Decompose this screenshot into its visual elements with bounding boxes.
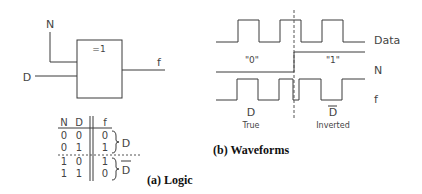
table-row: 1 0 1 (61, 156, 108, 167)
cell-d: 1 (76, 142, 82, 153)
cell-d: 0 (76, 156, 82, 167)
region-left-value: "0" (245, 55, 259, 65)
group-label-inverted: D (122, 164, 130, 177)
table-header-n: N (60, 117, 67, 128)
input-d-label: D (23, 71, 31, 84)
signal-label-f: f (374, 93, 379, 106)
region-right-value: "1" (326, 55, 340, 65)
caption-logic: (a) Logic (147, 173, 193, 187)
right-output-caption: Inverted (316, 121, 350, 130)
signal-label-data: Data (374, 34, 400, 47)
xor-diagram: =1 N D f N D f 0 0 0 0 1 1 1 0 (0, 0, 422, 194)
cell-n: 1 (61, 168, 67, 179)
input-n-label: N (46, 18, 54, 31)
brace-top (112, 131, 119, 153)
input-n-wire (50, 32, 77, 62)
table-row: 1 1 0 (61, 168, 108, 179)
gate-symbol: =1 (92, 44, 105, 54)
cell-f: 1 (102, 142, 108, 153)
cell-d: 0 (76, 130, 82, 141)
waveform-n: N "0" "1" (216, 52, 382, 77)
signal-label-n: N (374, 64, 382, 77)
cell-f: 0 (102, 168, 108, 179)
truth-table: N D f 0 0 0 0 1 1 1 0 1 1 1 0 D (58, 116, 140, 181)
cell-n: 0 (61, 142, 67, 153)
right-output-label: D (329, 106, 337, 119)
caption-waveforms: (b) Waveforms (213, 143, 289, 157)
cell-n: 0 (61, 130, 67, 141)
xor-gate: =1 N D f (23, 18, 165, 98)
brace-bottom (112, 158, 119, 180)
group-label-true: D (122, 137, 130, 150)
table-header-f: f (103, 117, 107, 128)
cell-n: 1 (61, 156, 67, 167)
table-header-d: D (75, 117, 83, 128)
cell-d: 1 (76, 168, 82, 179)
left-output-caption: True (242, 121, 260, 130)
cell-f: 1 (102, 156, 108, 167)
waveform-data: Data (216, 20, 400, 47)
waveform-f: f (216, 79, 379, 106)
table-row: 0 1 1 (61, 142, 108, 153)
table-row: 0 0 0 (61, 130, 108, 141)
output-f-label: f (157, 56, 162, 69)
cell-f: 0 (102, 130, 108, 141)
left-output-label: D (247, 106, 255, 119)
